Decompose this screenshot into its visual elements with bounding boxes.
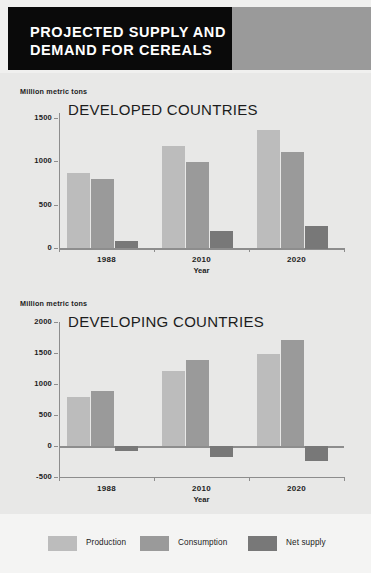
x-axis-category-label: 2010 bbox=[154, 255, 249, 264]
bar bbox=[281, 152, 304, 248]
x-axis-title: Year bbox=[59, 495, 344, 504]
y-axis-tick bbox=[54, 415, 58, 416]
bar bbox=[257, 354, 280, 446]
x-axis-tick bbox=[59, 477, 60, 481]
legend-swatch bbox=[248, 536, 277, 551]
bar bbox=[210, 231, 233, 248]
chart-legend: ProductionConsumptionNet supply bbox=[0, 514, 371, 573]
bar bbox=[67, 173, 90, 248]
legend-label: Consumption bbox=[178, 538, 227, 547]
chart1-plot-area: 050010001500198820102020Year bbox=[0, 73, 371, 282]
y-axis-label: 500 bbox=[11, 200, 52, 209]
bar bbox=[115, 241, 138, 248]
bar bbox=[305, 226, 328, 249]
y-axis-tick bbox=[54, 205, 58, 206]
y-axis-tick bbox=[54, 161, 58, 162]
y-axis-label: 500 bbox=[11, 410, 52, 419]
y-axis-label: 2000 bbox=[11, 317, 52, 326]
y-axis-label: 0 bbox=[11, 441, 52, 450]
y-axis-tick bbox=[54, 248, 58, 249]
bar bbox=[210, 446, 233, 457]
y-axis-tick bbox=[54, 118, 58, 119]
x-axis-category-label: 2020 bbox=[249, 484, 344, 493]
header-accent-block bbox=[232, 7, 371, 70]
zero-baseline bbox=[59, 446, 344, 448]
bar bbox=[67, 397, 90, 446]
x-axis-title: Year bbox=[59, 266, 344, 275]
x-axis-category-label: 2020 bbox=[249, 255, 344, 264]
x-axis-tick bbox=[344, 248, 345, 252]
legend-swatch bbox=[140, 536, 169, 551]
page-title: PROJECTED SUPPLY AND DEMAND FOR CEREALS bbox=[30, 23, 235, 59]
y-axis-label: -500 bbox=[11, 472, 52, 481]
legend-label: Net supply bbox=[286, 538, 326, 547]
x-axis-line bbox=[59, 248, 344, 249]
legend-label: Production bbox=[86, 538, 126, 547]
bar bbox=[91, 179, 114, 248]
chart-panel-developed: Million metric tons DEVELOPED COUNTRIES … bbox=[0, 73, 371, 282]
legend-swatch bbox=[48, 536, 77, 551]
y-axis-tick bbox=[54, 353, 58, 354]
chart2-plot-area: -5000500100015002000198820102020Year bbox=[0, 282, 371, 514]
y-axis-tick bbox=[54, 477, 58, 478]
y-axis-line bbox=[59, 113, 60, 248]
x-axis-tick bbox=[249, 248, 250, 252]
bar bbox=[91, 391, 114, 446]
legend-items-row: ProductionConsumptionNet supply bbox=[0, 536, 371, 552]
x-axis-category-label: 1988 bbox=[59, 484, 154, 493]
y-axis-tick bbox=[54, 384, 58, 385]
y-axis-tick bbox=[54, 446, 58, 447]
y-axis-label: 1500 bbox=[11, 113, 52, 122]
x-axis-tick bbox=[154, 248, 155, 252]
x-axis-line bbox=[59, 477, 344, 478]
y-axis-label: 1000 bbox=[11, 379, 52, 388]
x-axis-tick bbox=[59, 248, 60, 252]
infographic-page: PROJECTED SUPPLY AND DEMAND FOR CEREALS … bbox=[0, 0, 371, 573]
y-axis-line bbox=[59, 322, 60, 477]
chart-panel-developing: Million metric tons DEVELOPING COUNTRIES… bbox=[0, 282, 371, 514]
y-axis-label: 1500 bbox=[11, 348, 52, 357]
x-axis-category-label: 2010 bbox=[154, 484, 249, 493]
x-axis-tick bbox=[249, 477, 250, 481]
y-axis-label: 0 bbox=[11, 243, 52, 252]
bar bbox=[115, 446, 138, 451]
bar bbox=[162, 146, 185, 248]
bar bbox=[186, 162, 209, 248]
bar bbox=[257, 130, 280, 248]
x-axis-tick bbox=[154, 477, 155, 481]
bar bbox=[281, 340, 304, 446]
bar bbox=[162, 371, 185, 446]
header-title-block: PROJECTED SUPPLY AND DEMAND FOR CEREALS bbox=[8, 7, 232, 70]
header-bar: PROJECTED SUPPLY AND DEMAND FOR CEREALS bbox=[0, 0, 371, 73]
bar bbox=[186, 360, 209, 446]
y-axis-label: 1000 bbox=[11, 156, 52, 165]
x-axis-category-label: 1988 bbox=[59, 255, 154, 264]
bar bbox=[305, 446, 328, 461]
x-axis-tick bbox=[344, 477, 345, 481]
y-axis-tick bbox=[54, 322, 58, 323]
